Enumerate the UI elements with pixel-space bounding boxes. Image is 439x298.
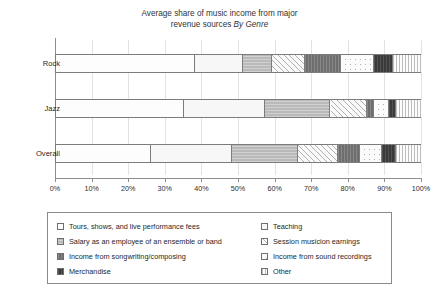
- legend-swatch-icon: [261, 223, 268, 230]
- legend-swatch-icon: [57, 253, 64, 260]
- bar-row[interactable]: [55, 144, 421, 163]
- legend-item-label: Teaching: [273, 222, 302, 231]
- x-tick-label: 100%: [412, 184, 430, 193]
- legend-item-label: Other: [273, 267, 291, 276]
- bar-segment[interactable]: [56, 100, 184, 117]
- x-tick-label: 10%: [84, 184, 98, 193]
- legend-item-label: Tours, shows, and live performance fees: [69, 222, 200, 231]
- y-axis-category-label: Rock: [43, 59, 60, 68]
- legend-item[interactable]: Income from songwriting/composing: [57, 249, 257, 264]
- bar-segment[interactable]: [184, 100, 265, 117]
- bar-row[interactable]: [55, 99, 421, 118]
- tick-mark: [165, 178, 166, 182]
- legend-item-label: Income from songwriting/composing: [69, 252, 186, 261]
- tick-mark: [275, 178, 276, 182]
- bar-segment[interactable]: [341, 55, 374, 72]
- x-tick-label: 90%: [377, 184, 391, 193]
- bar-segment[interactable]: [195, 55, 243, 72]
- chart-title-line1: Average share of music income from major: [142, 9, 298, 18]
- legend-item-label: Income from sound recordings: [273, 252, 372, 261]
- legend-item[interactable]: Merchandise: [57, 264, 257, 279]
- legend: Tours, shows, and live performance feesS…: [47, 212, 392, 284]
- chart-title-line2-italic: By Genre: [234, 20, 269, 29]
- bar-segment[interactable]: [56, 145, 151, 162]
- tick-mark: [238, 178, 239, 182]
- legend-item[interactable]: Teaching: [261, 219, 391, 234]
- plot-area: [55, 40, 421, 175]
- bar-segment[interactable]: [374, 100, 389, 117]
- tick-mark: [201, 178, 202, 182]
- legend-swatch-icon: [57, 268, 64, 275]
- x-tick-label: 70%: [304, 184, 318, 193]
- bar-segment[interactable]: [265, 100, 331, 117]
- x-tick-label: 30%: [158, 184, 172, 193]
- tick-mark: [348, 178, 349, 182]
- bar-segment[interactable]: [232, 145, 298, 162]
- x-tick-label: 60%: [267, 184, 281, 193]
- bar-segment[interactable]: [298, 145, 338, 162]
- bar-segment[interactable]: [374, 55, 392, 72]
- tick-mark: [311, 178, 312, 182]
- bar-segment[interactable]: [360, 145, 382, 162]
- legend-item[interactable]: Salary as an employee of an ensemble or …: [57, 234, 257, 249]
- tick-mark: [128, 178, 129, 182]
- bar-segment[interactable]: [396, 100, 422, 117]
- y-axis-category-label: Overall: [36, 149, 60, 158]
- bar-segment[interactable]: [243, 55, 272, 72]
- bar-segment[interactable]: [151, 145, 232, 162]
- tick-mark: [92, 178, 93, 182]
- legend-item[interactable]: Other: [261, 264, 391, 279]
- bar-segment[interactable]: [389, 100, 396, 117]
- bar-segment[interactable]: [331, 100, 368, 117]
- legend-swatch-icon: [261, 268, 268, 275]
- bar-segment[interactable]: [272, 55, 305, 72]
- legend-item-label: Merchandise: [69, 267, 111, 276]
- bar-segment[interactable]: [305, 55, 342, 72]
- tick-mark: [55, 178, 56, 182]
- x-tick-label: 20%: [121, 184, 135, 193]
- bar-segment[interactable]: [56, 55, 195, 72]
- x-tick-label: 0%: [50, 184, 60, 193]
- x-tick-label: 80%: [341, 184, 355, 193]
- legend-column-left: Tours, shows, and live performance feesS…: [57, 219, 257, 279]
- y-axis-category-label: Jazz: [44, 104, 60, 113]
- bar-segment[interactable]: [367, 100, 374, 117]
- bar-segment[interactable]: [396, 145, 422, 162]
- legend-item-label: Session musicion earnings: [273, 237, 360, 246]
- bar-row[interactable]: [55, 54, 421, 73]
- legend-column-right: TeachingSession musicion earningsIncome …: [261, 219, 391, 279]
- chart-title: Average share of music income from major…: [0, 8, 439, 30]
- legend-item[interactable]: Income from sound recordings: [261, 249, 391, 264]
- legend-item[interactable]: Tours, shows, and live performance fees: [57, 219, 257, 234]
- chart-title-line2-plain: revenue sources: [171, 20, 234, 29]
- bar-segment[interactable]: [338, 145, 360, 162]
- bar-segment[interactable]: [393, 55, 422, 72]
- x-tick-label: 50%: [231, 184, 245, 193]
- legend-swatch-icon: [261, 238, 268, 245]
- legend-swatch-icon: [261, 253, 268, 260]
- legend-swatch-icon: [57, 238, 64, 245]
- legend-swatch-icon: [57, 223, 64, 230]
- legend-item-label: Salary as an employee of an ensemble or …: [69, 237, 222, 246]
- legend-item[interactable]: Session musicion earnings: [261, 234, 391, 249]
- tick-mark: [421, 178, 422, 182]
- bar-segment[interactable]: [382, 145, 397, 162]
- tick-mark: [384, 178, 385, 182]
- x-tick-label: 40%: [194, 184, 208, 193]
